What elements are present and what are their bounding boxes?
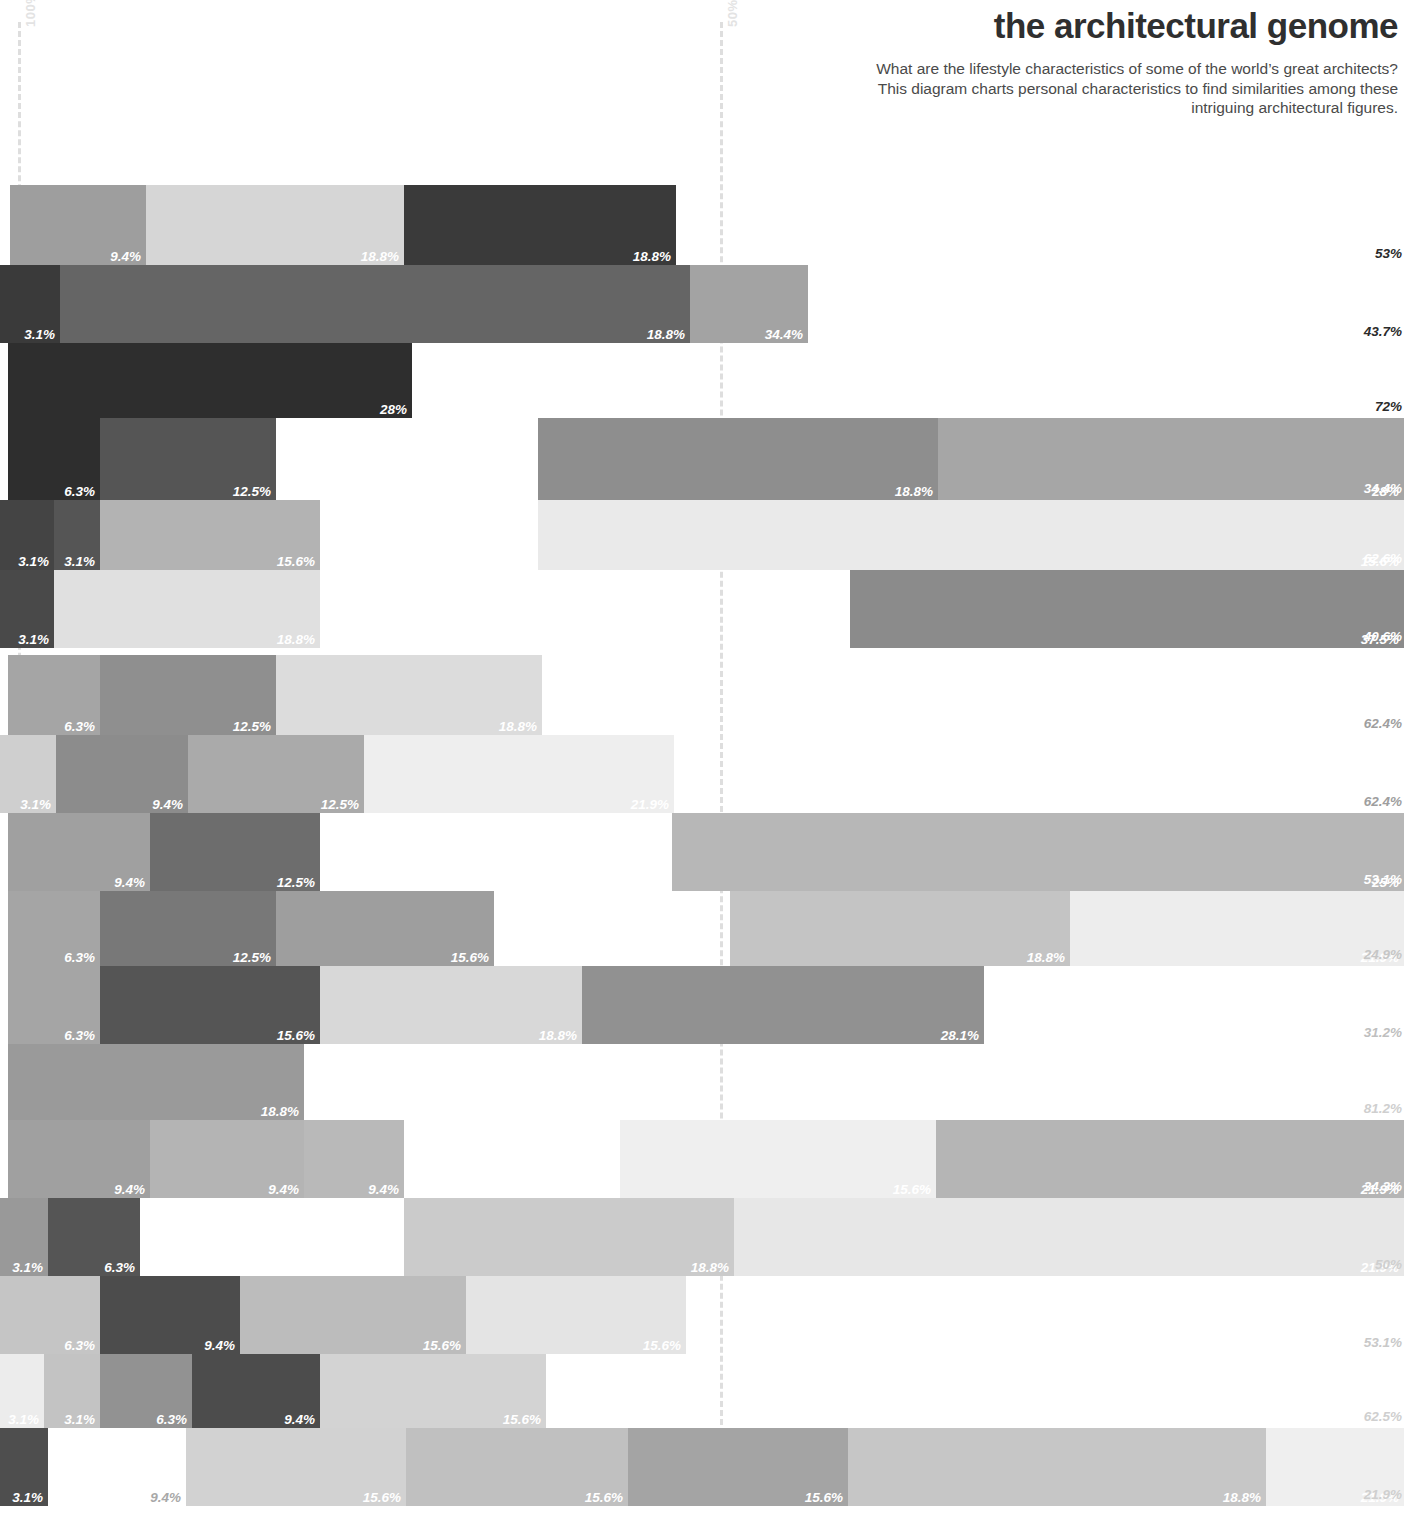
bar-segment-label: 3.1% [24,328,55,342]
bar-segment-label: 18.8% [1027,951,1065,965]
bar-segment: 28% [8,343,412,418]
bar-segment-label: 15.6% [585,1491,623,1505]
bar-segment-label: 3.1% [64,1413,95,1427]
bar-segment: 3.1% [0,570,54,648]
bar-segment-label: 12.5% [277,876,315,890]
bar-segment: 18.8% [404,1198,734,1276]
bar-segment-label: 15.6% [363,1491,401,1505]
bar-segment: 12.5% [100,418,276,500]
gridline-label-50: 50% [725,0,740,27]
bar-segment: 18.8% [538,418,938,500]
bar-segment: 3.1% [0,735,56,813]
row-total: 31.2% [1364,1026,1402,1040]
header: the architectural genome What are the li… [868,8,1398,118]
bar-segment: 6.3% [8,655,100,735]
row-total: 53% [1375,247,1402,261]
bar-segment: 15.6% [538,500,1404,570]
row-total: 53.1% [1364,1336,1402,1350]
bar-segment-label: 9.4% [268,1183,299,1197]
bar-segment: 18.8% [730,891,1070,966]
bar-segment: 18.8% [54,570,320,648]
bar-segment-label: 9.4% [152,798,183,812]
bar-segment-label: 21.9% [631,798,669,812]
bar-segment: 34.4% [690,265,808,343]
row-total: 50% [1375,1258,1402,1272]
bar-segment-label: 9.4% [150,1491,181,1505]
bar-segment: 3.1% [54,500,100,570]
bar-segment-label: 15.6% [643,1339,681,1353]
bar-segment-label: 9.4% [204,1339,235,1353]
bar-segment: 21.9% [936,1120,1404,1198]
bar-segment: 3.1% [0,1198,48,1276]
bar-segment-label: 15.6% [277,555,315,569]
bar-segment: 6.3% [0,1276,100,1354]
row-total: 24.9% [1364,948,1402,962]
gridline-label-100: 100% [23,0,38,27]
bar-segment: 18.8% [320,966,582,1044]
page-subtitle: What are the lifestyle characteristics o… [868,59,1398,118]
bar-segment-label: 3.1% [18,555,49,569]
bar-segment: 9.4% [8,1120,150,1198]
bar-segment: 12.5% [100,891,276,966]
bar-segment-label: 12.5% [233,951,271,965]
bar-segment: 18.8% [8,1044,304,1120]
row-total: 81.2% [1364,1102,1402,1116]
bar-segment: 15.6% [100,966,320,1044]
bar-segment-label: 6.3% [64,1029,95,1043]
bar-segment: 15.6% [628,1428,848,1506]
bar-segment: 37.5% [850,570,1404,648]
bar-segment: 9.4% [192,1354,320,1428]
bar-segment: 28% [938,418,1404,500]
bar-segment-label: 18.8% [277,633,315,647]
bar-segment-label: 3.1% [12,1491,43,1505]
page-title: the architectural genome [868,8,1398,45]
bar-segment-label: 3.1% [12,1261,43,1275]
bar-segment: 3.1% [0,265,60,343]
bar-segment-label: 18.8% [361,250,399,264]
bar-segment-label: 9.4% [114,876,145,890]
bar-segment: 9.4% [10,185,146,265]
bar-segment-label: 34.4% [765,328,803,342]
bar-segment: 18.8% [848,1428,1266,1506]
bar-segment-label: 3.1% [18,633,49,647]
bar-segment: 21.9% [1070,891,1404,966]
bar-segment: 15.6% [240,1276,466,1354]
bar-segment: 15.6% [186,1428,406,1506]
bar-segment: 18.8% [276,655,542,735]
bar-segment-label: 18.8% [539,1029,577,1043]
bar-segment-label: 3.1% [64,555,95,569]
bar-segment-label: 9.4% [284,1413,315,1427]
bar-segment-label: 6.3% [64,485,95,499]
bar-segment-label: 28.1% [941,1029,979,1043]
bar-segment: 15.6% [620,1120,936,1198]
bar-segment-label: 6.3% [64,951,95,965]
bar-segment-label: 18.8% [1223,1491,1261,1505]
bar-segment: 28.1% [582,966,984,1044]
bar-segment: 3.1% [0,500,54,570]
bar-segment: 15.6% [320,1354,546,1428]
row-total: 62.5% [1364,1410,1402,1424]
bar-segment: 18.8% [146,185,404,265]
bar-segment: 3.1% [0,1428,48,1506]
bar-segment: 18.8% [60,265,690,343]
bar-segment: 3.1% [0,1354,44,1428]
bar-segment-label: 6.3% [64,720,95,734]
bar-segment-label: 12.5% [321,798,359,812]
bar-segment-label: 9.4% [368,1183,399,1197]
bar-segment-label: 18.8% [261,1105,299,1119]
row-total: 40.6% [1364,630,1402,644]
bar-segment-label: 12.5% [233,485,271,499]
bar-segment-label: 6.3% [104,1261,135,1275]
row-total: 34.4% [1364,482,1402,496]
bar-segment: 9.4% [56,735,188,813]
bar-segment-label: 28% [380,403,407,417]
bar-segment-label: 6.3% [64,1339,95,1353]
bar-segment: 3.1% [44,1354,100,1428]
bar-segment: 15.6% [466,1276,686,1354]
bar-segment-label: 18.8% [499,720,537,734]
bar-segment-label: 18.8% [691,1261,729,1275]
bar-segment: 12.5% [150,813,320,891]
bar-segment-label: 15.6% [503,1413,541,1427]
bar-segment-label: 15.6% [423,1339,461,1353]
bar-segment: 21.9% [734,1198,1404,1276]
